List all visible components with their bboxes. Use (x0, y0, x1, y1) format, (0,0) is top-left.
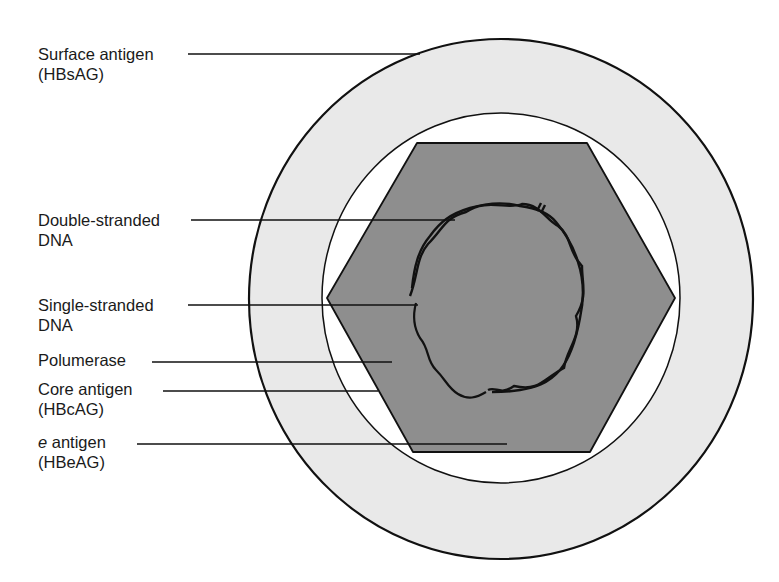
label-line: (HBcAG) (38, 399, 132, 419)
label-line: Polumerase (38, 350, 126, 370)
label-line: (HBeAG) (38, 452, 106, 472)
label-line: Surface antigen (38, 44, 154, 64)
label-line: DNA (38, 315, 154, 335)
label-line: DNA (38, 230, 160, 250)
label-e-antigen: e antigen (HBeAG) (38, 432, 106, 472)
italic-e: e (38, 433, 47, 451)
label-line: Core antigen (38, 379, 132, 399)
label-line: (HBsAG) (38, 64, 154, 84)
label-double-stranded-dna: Double-stranded DNA (38, 210, 160, 250)
label-polymerase: Polumerase (38, 350, 126, 370)
label-line: e antigen (38, 432, 106, 452)
label-core-antigen: Core antigen (HBcAG) (38, 379, 132, 419)
label-line: Single-stranded (38, 295, 154, 315)
hbv-structure-diagram (0, 0, 779, 582)
label-surface-antigen: Surface antigen (HBsAG) (38, 44, 154, 84)
label-text: antigen (47, 433, 106, 451)
label-single-stranded-dna: Single-stranded DNA (38, 295, 154, 335)
label-line: Double-stranded (38, 210, 160, 230)
